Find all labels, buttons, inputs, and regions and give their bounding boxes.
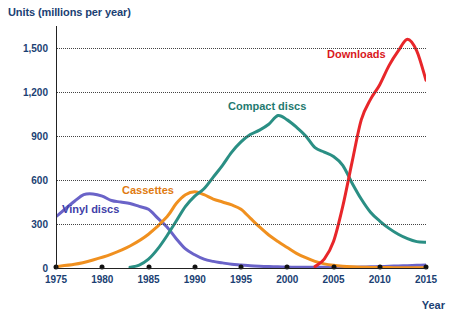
series-label-cassettes: Cassettes (122, 184, 174, 196)
gridline (56, 136, 426, 137)
y-tick-label: 300 (2, 219, 48, 230)
x-tick-label: 1990 (184, 274, 206, 285)
y-axis-tick-labels: 03006009001,2001,500 (0, 26, 52, 269)
series-label-vinyl-discs: Vinyl discs (62, 203, 119, 215)
y-tick-label: 1,500 (2, 43, 48, 54)
series-label-compact-discs: Compact discs (228, 100, 306, 112)
y-axis-title: Units (millions per year) (8, 6, 131, 18)
y-tick-label: 600 (2, 175, 48, 186)
gridline (56, 180, 426, 181)
x-tick-label: 1995 (230, 274, 252, 285)
y-tick-label: 1,200 (2, 87, 48, 98)
series-label-downloads: Downloads (327, 48, 386, 60)
x-tick-label: 2005 (322, 274, 344, 285)
series-line-compact-discs (130, 115, 426, 267)
x-tick-label: 1975 (45, 274, 67, 285)
plot-area (56, 26, 426, 268)
gridline (56, 92, 426, 93)
line-chart: Units (millions per year) 03006009001,20… (0, 0, 453, 317)
series-lines (56, 26, 426, 268)
y-tick-label: 0 (2, 263, 48, 274)
gridline (56, 224, 426, 225)
x-tick-label: 1980 (91, 274, 113, 285)
x-axis-tick-labels: 197519801985199019952000200520102015 (56, 272, 436, 288)
x-axis-title: Year (422, 299, 445, 311)
x-tick-label: 2010 (369, 274, 391, 285)
x-tick-label: 2015 (415, 274, 437, 285)
x-tick-label: 2000 (276, 274, 298, 285)
x-axis-line (56, 268, 427, 269)
x-tick-label: 1985 (137, 274, 159, 285)
y-axis-line (56, 26, 57, 269)
series-line-downloads (315, 39, 426, 266)
y-tick-label: 900 (2, 131, 48, 142)
